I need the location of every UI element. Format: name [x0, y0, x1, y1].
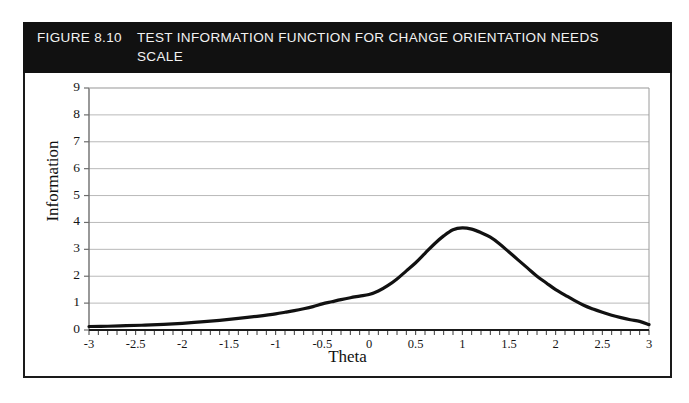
y-tick-label: 4: [56, 213, 80, 229]
y-tick-marks-group: [84, 88, 89, 330]
x-tick-label: -3: [69, 337, 109, 352]
x-tick-label: 1.5: [489, 337, 529, 352]
information-curve: [89, 228, 649, 327]
y-tick-label: 5: [56, 187, 80, 203]
figure-number-label: FIGURE 8.10: [37, 28, 137, 47]
y-tick-label: 8: [56, 106, 80, 122]
y-tick-label: 0: [56, 321, 80, 337]
figure-title: FIGURE 8.10TEST INFORMATION FUNCTION FOR…: [37, 28, 657, 66]
gridlines-group: [89, 88, 649, 303]
x-tick-label: -2: [162, 337, 202, 352]
x-tick-label: 2: [536, 337, 576, 352]
y-tick-label: 6: [56, 160, 80, 176]
x-tick-label: -2.5: [116, 337, 156, 352]
y-tick-label: 9: [56, 79, 80, 95]
y-tick-label: 3: [56, 240, 80, 256]
x-tick-label: 0: [349, 337, 389, 352]
x-tick-label: -1.5: [209, 337, 249, 352]
x-tick-label: -0.5: [302, 337, 342, 352]
chart-svg: [25, 75, 670, 378]
x-tick-label: 0.5: [396, 337, 436, 352]
x-tick-label: 2.5: [582, 337, 622, 352]
figure-container: FIGURE 8.10TEST INFORMATION FUNCTION FOR…: [23, 22, 672, 378]
figure-header-bar: FIGURE 8.10TEST INFORMATION FUNCTION FOR…: [23, 22, 672, 73]
x-tick-label: 1: [442, 337, 482, 352]
x-tick-label: -1: [256, 337, 296, 352]
y-tick-label: 1: [56, 294, 80, 310]
plot-area: Information Theta 0123456789 -3-2.5-2-1.…: [25, 75, 670, 378]
y-tick-label: 2: [56, 267, 80, 283]
y-tick-label: 7: [56, 133, 80, 149]
x-tick-label: 3: [629, 337, 669, 352]
figure-caption-label: TEST INFORMATION FUNCTION FOR CHANGE ORI…: [137, 28, 617, 66]
